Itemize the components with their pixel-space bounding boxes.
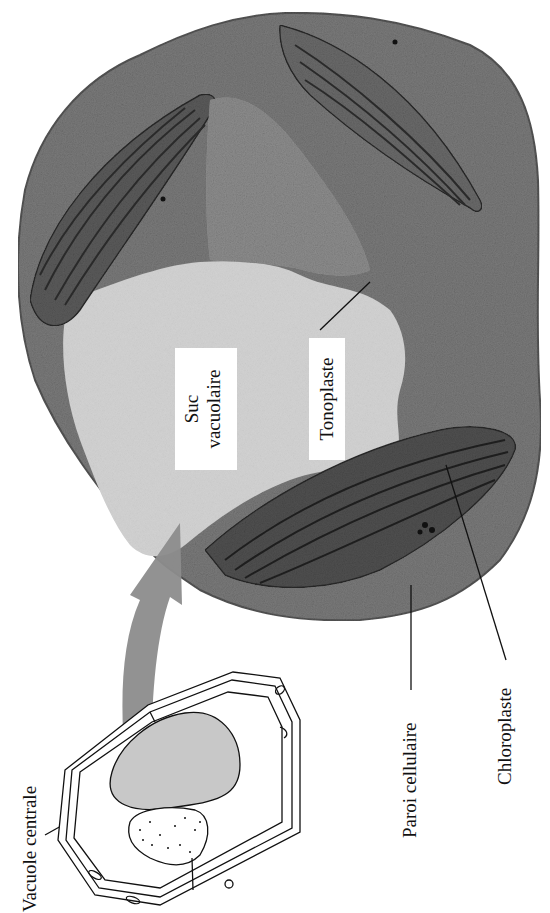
label-vacuole-centrale: Vacuole centrale xyxy=(20,786,39,912)
cell-micrograph xyxy=(18,13,541,620)
figure: Suc vacuolaire Tonoplaste Paroi cellulai… xyxy=(0,0,550,913)
label-tonoplaste: Tonoplaste xyxy=(316,344,338,454)
label-suc: Suc xyxy=(181,354,203,464)
label-box-tonoplaste: Tonoplaste xyxy=(309,338,345,460)
label-vacuolaire: vacuolaire xyxy=(203,354,225,464)
schematic-cell xyxy=(58,672,300,905)
label-chloroplaste: Chloroplaste xyxy=(495,688,514,785)
label-paroi-cellulaire: Paroi cellulaire xyxy=(400,722,419,838)
label-box-suc-vacuolaire: Suc vacuolaire xyxy=(175,348,237,470)
